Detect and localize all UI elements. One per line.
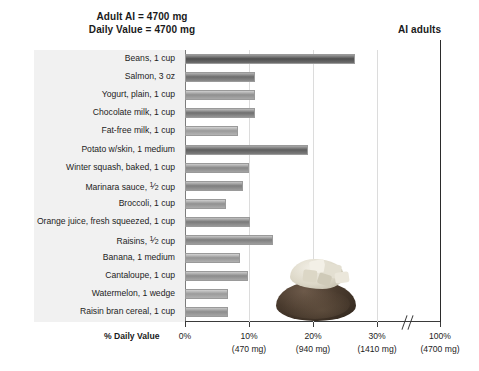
category-label: Chocolate milk, 1 cup bbox=[93, 108, 175, 117]
axis-tick-label: 10% bbox=[219, 331, 279, 341]
bar bbox=[185, 163, 249, 173]
bar bbox=[185, 90, 255, 100]
bar bbox=[185, 126, 238, 136]
category-label: Banana, 1 medium bbox=[103, 253, 175, 262]
topping-chunk bbox=[334, 271, 349, 284]
bar bbox=[185, 253, 240, 263]
axis-tick bbox=[377, 322, 378, 327]
ai-adults-reference-line bbox=[440, 40, 441, 322]
chart-header: Adult AI = 4700 mg Daily Value = 4700 mg bbox=[62, 10, 222, 36]
category-label: Raisins, 1⁄2 cup bbox=[116, 235, 175, 247]
category-label: Broccoli, 1 cup bbox=[119, 199, 175, 208]
potato-skin-highlight bbox=[280, 289, 350, 319]
bar bbox=[185, 72, 255, 82]
bar bbox=[185, 181, 243, 191]
bar bbox=[185, 145, 308, 155]
bar bbox=[185, 217, 250, 227]
axis-tick bbox=[249, 322, 250, 327]
bar bbox=[185, 235, 273, 245]
category-label: Raisin bran cereal, 1 cup bbox=[80, 307, 175, 316]
topping-chunk bbox=[302, 269, 317, 282]
bar bbox=[185, 307, 228, 317]
baked-potato-image bbox=[276, 257, 356, 321]
axis-tick-sublabel: (940 mg) bbox=[279, 344, 347, 354]
axis-tick-label: 100% bbox=[410, 331, 470, 341]
axis-tick-sublabel: (1410 mg) bbox=[343, 344, 411, 354]
category-label: Watermelon, 1 wedge bbox=[92, 289, 175, 298]
axis-tick bbox=[440, 322, 441, 327]
category-label: Fat-free milk, 1 cup bbox=[101, 126, 175, 135]
ai-adults-label: AI adults bbox=[398, 24, 441, 35]
axis-tick bbox=[185, 322, 186, 327]
axis-break-icon bbox=[400, 315, 416, 331]
bar bbox=[185, 289, 228, 299]
bar bbox=[185, 199, 226, 209]
bar bbox=[185, 108, 255, 118]
bar bbox=[185, 271, 248, 281]
category-label: Cantaloupe, 1 cup bbox=[105, 271, 175, 280]
category-label: Beans, 1 cup bbox=[125, 54, 175, 63]
axis-tick-sublabel: (470 mg) bbox=[215, 344, 283, 354]
category-label: Salmon, 3 oz bbox=[125, 72, 175, 81]
category-labels: Beans, 1 cupSalmon, 3 ozYogurt, plain, 1… bbox=[34, 50, 181, 322]
axis-tick-label: 0% bbox=[155, 331, 215, 341]
category-label: Marinara sauce, 1⁄2 cup bbox=[85, 181, 175, 193]
adult-ai-text: Adult AI = 4700 mg bbox=[62, 10, 222, 23]
category-label: Yogurt, plain, 1 cup bbox=[102, 90, 175, 99]
chart-container: Adult AI = 4700 mg Daily Value = 4700 mg… bbox=[0, 0, 479, 371]
axis-tick-sublabel: (4700 mg) bbox=[406, 344, 474, 354]
axis-tick bbox=[313, 322, 314, 327]
gridline-30 bbox=[377, 50, 378, 322]
x-axis-title: % Daily Value bbox=[104, 331, 159, 341]
category-label: Potato w/skin, 1 medium bbox=[81, 145, 175, 154]
category-label: Winter squash, baked, 1 cup bbox=[66, 163, 175, 172]
category-label: Orange juice, fresh squeezed, 1 cup bbox=[37, 217, 175, 226]
axis-tick-label: 20% bbox=[283, 331, 343, 341]
bar bbox=[185, 54, 355, 64]
daily-value-text: Daily Value = 4700 mg bbox=[62, 23, 222, 36]
potato-topping bbox=[290, 259, 344, 289]
axis-tick-label: 30% bbox=[347, 331, 407, 341]
